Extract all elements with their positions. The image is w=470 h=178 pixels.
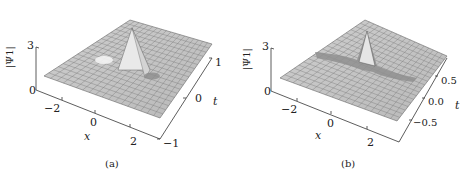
x-tick-2: 2 xyxy=(130,136,137,147)
z-tick-0: 0 xyxy=(264,86,271,97)
x-tick-neg2: −2 xyxy=(281,104,297,115)
t-tick-0.5: 0.5 xyxy=(441,75,457,86)
t-tick-neg1: −1 xyxy=(163,138,179,149)
t-tick-0: 0 xyxy=(195,93,202,104)
t-axis-label: t xyxy=(213,96,217,107)
z-axis-label: |Ψ1| xyxy=(241,48,252,70)
t-tick-0.0: 0.0 xyxy=(428,96,444,107)
x-tick-0: 0 xyxy=(327,118,334,129)
z-tick-0: 0 xyxy=(29,85,36,96)
x-axis-label: x xyxy=(84,131,90,142)
t-tick-neg0.5: −0.5 xyxy=(413,117,437,128)
caption-b: (b) xyxy=(341,158,355,169)
t-axis-label: t xyxy=(455,100,459,111)
panel-b: 3 0 |Ψ1| −2 0 2 x 0.5 0.0 −0.5 t (b) xyxy=(235,0,470,178)
x-tick-2: 2 xyxy=(367,137,374,148)
x-tick-neg2: −2 xyxy=(44,103,60,114)
z-tick-3: 3 xyxy=(27,40,34,51)
t-tick-1: 1 xyxy=(215,57,222,68)
z-tick-3: 3 xyxy=(262,41,269,52)
x-tick-0: 0 xyxy=(90,117,97,128)
z-axis-label: |Ψ1| xyxy=(4,46,15,68)
caption-a: (a) xyxy=(105,158,119,169)
panel-a: 3 0 |Ψ1| −2 0 2 x 1 0 −1 t (a) xyxy=(0,0,235,178)
x-axis-label: x xyxy=(315,130,321,141)
